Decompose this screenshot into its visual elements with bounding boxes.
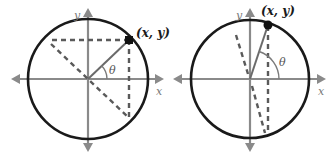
point-marker [264, 21, 273, 30]
y-axis-label: y [235, 9, 243, 22]
y-axis-label: y [73, 9, 81, 22]
y-axis-down-arrow-icon [83, 143, 93, 152]
x-axis-label: x [318, 85, 325, 98]
x-axis-left-arrow-icon [173, 74, 182, 84]
point-marker [125, 36, 133, 44]
y-axis-up-arrow-icon [245, 8, 255, 17]
x-axis-right-arrow-icon [155, 74, 164, 84]
left-diagram: (x, y) y x θ [11, 8, 170, 152]
right-diagram: (x, y) y x θ [173, 4, 326, 152]
radius-line [250, 25, 268, 79]
point-label: (x, y) [261, 4, 295, 18]
y-axis-up-arrow-icon [83, 8, 93, 17]
theta-label: θ [279, 56, 286, 69]
x-axis-left-arrow-icon [11, 74, 20, 84]
diagonal-reflection-line-upper [236, 35, 248, 74]
theta-label: θ [109, 64, 116, 77]
y-axis-down-arrow-icon [245, 143, 255, 152]
x-axis-label: x [156, 85, 163, 98]
theta-arc [101, 66, 107, 79]
diagonal-reflection-line-lower [252, 86, 265, 133]
unit-circle-figure: (x, y) y x θ (x, y) y x θ [0, 0, 331, 154]
x-axis-right-arrow-icon [317, 74, 326, 84]
point-label: (x, y) [136, 26, 170, 40]
